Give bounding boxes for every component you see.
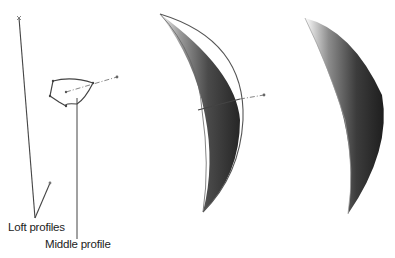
result-solid — [305, 18, 384, 214]
loft-diagram — [0, 0, 395, 258]
callout-loft-profiles: Loft profiles — [8, 221, 65, 233]
loft-profile-point-bottom — [49, 182, 52, 185]
preview-surface — [160, 14, 240, 212]
loft-profile-line-2 — [35, 183, 50, 218]
profiles-panel — [17, 16, 118, 239]
preview-axis — [240, 95, 264, 99]
middle-profile-shape — [50, 79, 93, 106]
callout-middle-profile: Middle profile — [45, 238, 111, 250]
loft-profile-line-1 — [19, 18, 35, 218]
preview-panel — [160, 14, 265, 212]
result-panel — [305, 18, 384, 214]
